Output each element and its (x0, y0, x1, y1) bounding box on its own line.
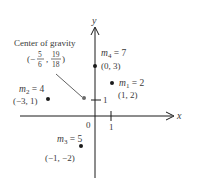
center-x-denominator: 6 (38, 60, 42, 69)
y-axis-label: y (91, 15, 97, 26)
center-leader-line (56, 74, 82, 97)
origin-label: 0 (86, 120, 91, 130)
center-y-denominator: 18 (52, 60, 60, 69)
mass-m1: m1 = 2 (1, 2) (110, 78, 144, 100)
mass-m4: m4 = 7 (0, 3) (93, 48, 126, 71)
mass-m3: m3 = 5 (−1, −2) (45, 134, 83, 163)
center-x-numerator: 5 (38, 50, 42, 59)
center-y-numerator: 19 (52, 50, 60, 59)
mass-coords: (1, 2) (118, 90, 138, 100)
mass-dot (110, 81, 114, 85)
y-tick-label: 1 (103, 95, 108, 105)
svg-text:m4 = 7: m4 = 7 (101, 48, 126, 60)
svg-text:m2 = 4: m2 = 4 (19, 84, 44, 96)
x-axis-label: x (176, 110, 182, 121)
center-open-paren: (− (27, 54, 35, 64)
center-dot (82, 96, 86, 100)
y-axis (91, 27, 101, 178)
mass-m2: m2 = 4 (−3, 1) (13, 84, 50, 106)
x-tick-label: 1 (109, 122, 114, 132)
svg-text:m3 = 5: m3 = 5 (57, 134, 82, 146)
mass-dot (93, 64, 97, 68)
mass-coords: (0, 3) (101, 61, 121, 71)
mass-dot (79, 144, 83, 148)
center-close-paren: ) (62, 54, 65, 64)
mass-dot (46, 97, 50, 101)
mass-coords: (−3, 1) (13, 96, 38, 106)
center-of-gravity-diagram: x y 0 1 1 Center of gravity (− 5 6 , 19 … (0, 0, 197, 189)
svg-text:m1 = 2: m1 = 2 (119, 78, 144, 90)
center-title: Center of gravity (14, 38, 76, 48)
center-comma: , (46, 54, 48, 64)
x-axis (20, 111, 174, 121)
mass-coords: (−1, −2) (45, 153, 75, 163)
